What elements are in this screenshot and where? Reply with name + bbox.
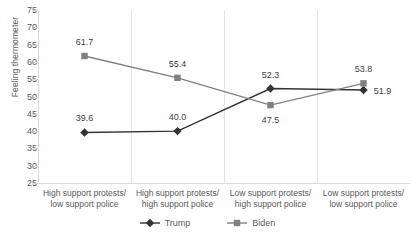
y-axis-tick-labels: 7570656055504540353025 (0, 0, 37, 240)
x-category-label-line: high support police (131, 199, 224, 210)
x-category-label-line: low support police (317, 199, 410, 210)
legend-item-trump[interactable]: Trump (139, 218, 191, 228)
x-axis-line (38, 183, 410, 184)
legend-swatch-square-icon (226, 218, 248, 228)
data-point-trump (80, 128, 88, 136)
data-point-biden (267, 102, 273, 108)
y-tick-mark (34, 97, 38, 98)
y-tick-mark (34, 62, 38, 63)
series-line-biden (85, 56, 364, 105)
y-tick-mark (34, 131, 38, 132)
legend-label: Biden (252, 218, 275, 228)
data-point-trump (173, 127, 181, 135)
x-category-label-line: Low support protests/ (224, 188, 317, 199)
x-category-label-line: High support protests/ (131, 188, 224, 199)
data-point-trump (359, 86, 367, 94)
line-chart: Feeling thermometer 75706560555045403530… (0, 0, 414, 240)
data-label: 53.8 (355, 64, 373, 74)
y-tick-label: 25 (3, 178, 37, 188)
y-tick-mark (34, 166, 38, 167)
y-tick-mark (34, 10, 38, 11)
x-category-label: Low support protests/low support police (317, 188, 410, 210)
data-point-biden (360, 80, 366, 86)
x-category-label: High support protests/low support police (38, 188, 131, 210)
x-category-label-line: low support police (38, 199, 131, 210)
legend-item-biden[interactable]: Biden (226, 218, 275, 228)
data-point-trump (266, 84, 274, 92)
y-tick-label: 75 (3, 5, 37, 15)
legend-marker-icon (234, 220, 240, 226)
x-category-label-line: High support protests/ (38, 188, 131, 199)
y-tick-label: 45 (3, 109, 37, 119)
plot-area: 39.640.052.351.961.755.447.553.8 (38, 10, 410, 183)
y-tick-mark (34, 148, 38, 149)
legend-marker-icon (145, 219, 153, 227)
y-tick-mark (34, 45, 38, 46)
data-label: 47.5 (262, 115, 280, 125)
y-tick-label: 60 (3, 57, 37, 67)
y-tick-label: 35 (3, 143, 37, 153)
data-label: 61.7 (76, 37, 94, 47)
y-tick-label: 55 (3, 74, 37, 84)
y-tick-mark (34, 27, 38, 28)
y-tick-mark (34, 79, 38, 80)
chart-legend: TrumpBiden (0, 218, 414, 228)
data-label: 55.4 (169, 59, 187, 69)
data-label: 40.0 (169, 112, 187, 122)
legend-swatch-diamond-icon (139, 218, 161, 228)
x-category-label-line: Low support protests/ (317, 188, 410, 199)
series-line-trump (85, 89, 364, 133)
x-category-label-line: high support police (224, 199, 317, 210)
y-tick-mark (34, 114, 38, 115)
y-tick-label: 30 (3, 161, 37, 171)
y-tick-label: 65 (3, 40, 37, 50)
y-tick-label: 70 (3, 22, 37, 32)
data-point-biden (81, 53, 87, 59)
data-label: 51.9 (374, 86, 392, 96)
data-label: 52.3 (262, 70, 280, 80)
series-lines (38, 10, 410, 183)
y-tick-mark (34, 183, 38, 184)
y-tick-label: 40 (3, 126, 37, 136)
y-tick-label: 50 (3, 92, 37, 102)
x-category-label: High support protests/high support polic… (131, 188, 224, 210)
data-point-biden (174, 75, 180, 81)
x-category-label: Low support protests/high support police (224, 188, 317, 210)
legend-label: Trump (165, 218, 191, 228)
data-label: 39.6 (76, 113, 94, 123)
